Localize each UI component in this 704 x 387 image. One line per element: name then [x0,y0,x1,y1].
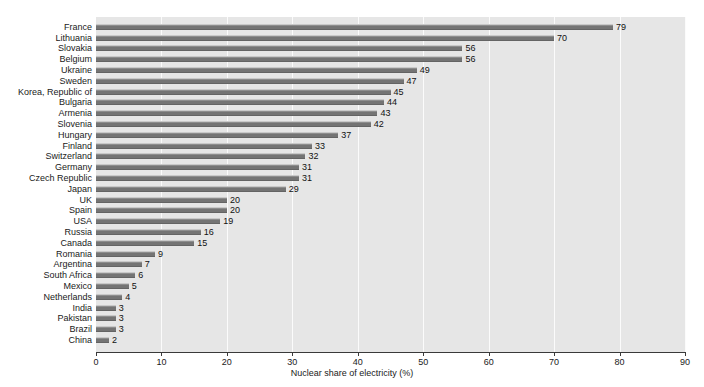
bar [96,305,116,311]
bar [96,110,377,116]
bar [96,186,286,192]
x-axis-tick [292,352,293,356]
x-axis-tick-label: 10 [156,357,166,368]
x-axis-tick-label: 0 [93,357,98,368]
bar [96,121,371,127]
x-axis-tick-label: 40 [353,357,363,368]
x-axis-tick-label: 50 [418,357,428,368]
x-axis-tick [685,352,686,356]
x-axis-tick [423,352,424,356]
bar [96,207,227,213]
bar [96,251,155,257]
x-axis-tick-label: 70 [549,357,559,368]
x-axis-tick [620,352,621,356]
bar [96,283,129,289]
bar [96,240,194,246]
x-axis-tick-label: 80 [615,357,625,368]
bar [96,326,116,332]
x-axis-tick-label: 20 [222,357,232,368]
bar [96,294,122,300]
x-axis-tick [489,352,490,356]
bar [96,261,142,267]
bar [96,35,554,41]
bar [96,45,462,51]
x-axis-tick [358,352,359,356]
x-axis-tick-label: 60 [484,357,494,368]
bar [96,24,613,30]
bar [96,153,305,159]
bar [96,67,417,73]
bar-row: China2 [0,334,704,346]
bar [96,143,312,149]
bar [96,132,338,138]
bar [96,197,227,203]
x-axis-tick [161,352,162,356]
bar [96,164,299,170]
x-axis-title: Nuclear share of electricity (%) [0,368,704,379]
x-axis-tick-label: 30 [287,357,297,368]
bar [96,218,220,224]
x-axis-tick-label: 90 [680,357,690,368]
bar-value-label: 2 [112,334,117,346]
x-axis-line [96,352,685,353]
bar [96,175,299,181]
x-axis-tick [96,352,97,356]
bar [96,315,116,321]
bar [96,89,391,95]
bar [96,229,201,235]
bar [96,56,462,62]
bar [96,78,404,84]
x-axis-tick [554,352,555,356]
x-axis-tick [227,352,228,356]
bar [96,337,109,343]
bar [96,99,384,105]
nuclear-share-bar-chart: Nuclear share of electricity (%) 0102030… [0,0,704,387]
bar [96,272,135,278]
category-label: China [0,334,92,346]
